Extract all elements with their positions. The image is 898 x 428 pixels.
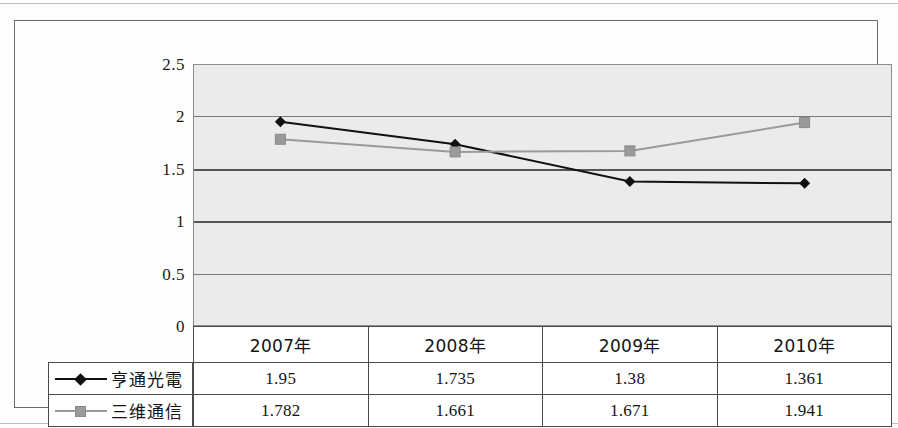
table-cell-value: 1.361 bbox=[717, 363, 892, 395]
table-cell-value: 1.671 bbox=[543, 395, 718, 427]
table-cell-value: 1.95 bbox=[194, 363, 369, 395]
table-cell-value: 1.735 bbox=[368, 363, 543, 395]
legend-row: 三维通信 bbox=[49, 395, 193, 427]
legend-cell: 亨通光電 bbox=[49, 363, 193, 395]
page-rule-top bbox=[0, 3, 898, 4]
legend-series-label: 三维通信 bbox=[107, 398, 183, 423]
category-label: 2009年 bbox=[543, 327, 718, 363]
category-label-text: 2008年 bbox=[424, 336, 486, 356]
category-label-text: 2010年 bbox=[773, 336, 835, 356]
legend-marker-square-icon bbox=[55, 404, 107, 418]
gridline-1.5 bbox=[194, 169, 891, 171]
y-tick-label: 0 bbox=[125, 318, 185, 335]
data-table: 2007年2008年2009年2010年1.951.7351.381.3611.… bbox=[193, 326, 892, 427]
y-tick-label: 2 bbox=[125, 108, 185, 125]
legend-series-label: 亨通光電 bbox=[107, 366, 183, 391]
chart-legend: 亨通光電三维通信 bbox=[48, 362, 193, 427]
y-tick-label: 2.5 bbox=[125, 56, 185, 73]
gridline-2 bbox=[194, 116, 891, 117]
legend-entry: 三维通信 bbox=[49, 395, 192, 426]
legend-marker-diamond-icon bbox=[55, 372, 107, 386]
table-cell-value: 1.782 bbox=[194, 395, 369, 427]
chart-figure: 00.511.522.5 2007年2008年2009年2010年1.951.7… bbox=[0, 0, 898, 428]
category-label: 2010年 bbox=[717, 327, 892, 363]
gridline-1 bbox=[194, 221, 891, 223]
legend-point-marker bbox=[74, 373, 87, 386]
gridline-0.5 bbox=[194, 274, 891, 275]
table-cell-value: 1.661 bbox=[368, 395, 543, 427]
y-tick-label: 1 bbox=[125, 213, 185, 230]
legend-point-marker bbox=[75, 406, 86, 417]
category-label: 2008年 bbox=[368, 327, 543, 363]
data-table-body: 2007年2008年2009年2010年1.951.7351.381.3611.… bbox=[194, 327, 892, 427]
chart-outer-frame: 00.511.522.5 2007年2008年2009年2010年1.951.7… bbox=[14, 20, 878, 408]
legend-cell: 三维通信 bbox=[49, 395, 193, 427]
category-label: 2007年 bbox=[194, 327, 369, 363]
table-cell-value: 1.941 bbox=[717, 395, 892, 427]
y-tick-label: 0.5 bbox=[125, 265, 185, 282]
y-tick-label: 1.5 bbox=[125, 160, 185, 177]
category-label-text: 2007年 bbox=[250, 336, 312, 356]
category-label-text: 2009年 bbox=[599, 336, 661, 356]
chart-legend-body: 亨通光電三维通信 bbox=[49, 363, 193, 427]
table-row: 1.951.7351.381.361 bbox=[194, 363, 892, 395]
y-axis: 00.511.522.5 bbox=[123, 64, 185, 326]
plot-area bbox=[193, 64, 892, 326]
legend-row: 亨通光電 bbox=[49, 363, 193, 395]
table-row: 1.7821.6611.6711.941 bbox=[194, 395, 892, 427]
legend-entry: 亨通光電 bbox=[49, 363, 192, 394]
table-cell-value: 1.38 bbox=[543, 363, 718, 395]
table-row-categories: 2007年2008年2009年2010年 bbox=[194, 327, 892, 363]
